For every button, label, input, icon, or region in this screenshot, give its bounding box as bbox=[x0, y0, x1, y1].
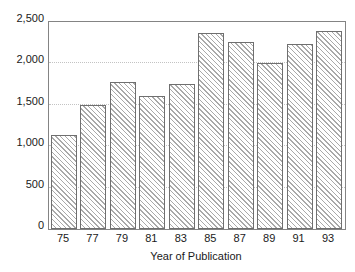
y-tick-label: 2,500 bbox=[0, 12, 44, 24]
x-axis-title: Year of Publication bbox=[48, 249, 344, 263]
x-tick-label: 91 bbox=[289, 232, 309, 245]
x-tick-label: 87 bbox=[230, 232, 250, 245]
bar-91 bbox=[287, 44, 313, 229]
x-tick-label: 81 bbox=[141, 232, 161, 245]
bar-79 bbox=[110, 82, 136, 229]
bar-89 bbox=[257, 63, 283, 229]
x-tick-label: 83 bbox=[171, 232, 191, 245]
y-tick-label: 500 bbox=[0, 178, 44, 190]
bar-75 bbox=[51, 135, 77, 229]
bar-83 bbox=[169, 84, 195, 229]
bar-chart-figure: 05001,0001,5002,0002,500 757779818385878… bbox=[0, 0, 355, 272]
bar-87 bbox=[228, 42, 254, 229]
bar-93 bbox=[316, 31, 342, 229]
y-axis-labels: 05001,0001,5002,0002,500 bbox=[0, 0, 44, 272]
x-tick-label: 85 bbox=[200, 232, 220, 245]
y-tick-label: 1,500 bbox=[0, 95, 44, 107]
bar-85 bbox=[198, 33, 224, 229]
plot-area bbox=[48, 21, 346, 230]
y-tick-label: 2,000 bbox=[0, 53, 44, 65]
bar-81 bbox=[139, 96, 165, 229]
x-tick-label: 77 bbox=[82, 232, 102, 245]
x-axis-labels: 75777981838587899193 bbox=[48, 232, 344, 245]
x-tick-label: 89 bbox=[259, 232, 279, 245]
y-tick-label: 0 bbox=[0, 219, 44, 231]
y-tick-label: 1,000 bbox=[0, 136, 44, 148]
x-tick-label: 75 bbox=[53, 232, 73, 245]
x-tick-label: 79 bbox=[112, 232, 132, 245]
bar-77 bbox=[80, 105, 106, 229]
x-tick-label: 93 bbox=[318, 232, 338, 245]
